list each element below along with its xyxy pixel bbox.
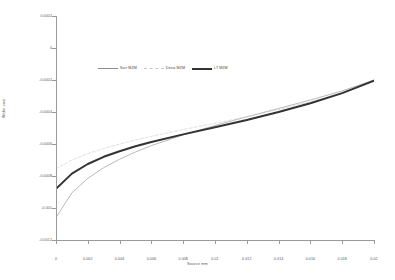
x-tick-label-text: 0.006 — [147, 257, 157, 261]
x-tick-label-text: 0.004 — [115, 257, 125, 261]
x-axis-title: Source mm — [0, 262, 395, 266]
series-line — [56, 81, 374, 169]
y-tick-label-text: -0.001 — [8, 206, 52, 210]
y-tick-mark — [52, 208, 56, 209]
y-tick-label: -0.0004 — [0, 110, 52, 114]
y-tick-label: -0.001 — [0, 206, 52, 210]
y-tick-mark — [52, 144, 56, 145]
x-tick-mark — [56, 240, 57, 244]
x-tick-mark — [183, 240, 184, 244]
x-tick-label-text: 0.016 — [306, 257, 316, 261]
x-tick-label-text: 0.02 — [370, 257, 377, 261]
x-tick-label-text: 0.01 — [211, 257, 218, 261]
y-tick-label-text: 0.0002 — [8, 14, 52, 18]
x-tick-mark — [247, 240, 248, 244]
y-tick-mark — [52, 48, 56, 49]
y-tick-label-text: -0.0006 — [8, 142, 52, 146]
x-tick-label-text: 0.012 — [242, 257, 252, 261]
legend-label: Surr MZM — [120, 66, 137, 70]
legend-item[interactable]: Surr MZM — [98, 62, 137, 74]
y-tick-label-text: -0.0004 — [8, 110, 52, 114]
x-tick-mark — [215, 240, 216, 244]
x-tick-mark — [374, 240, 375, 244]
x-tick-label-text: 0.018 — [337, 257, 347, 261]
x-tick-label-text: 0.014 — [274, 257, 284, 261]
y-tick-mark — [52, 80, 56, 81]
legend-item[interactable]: LT MZM — [192, 62, 228, 74]
y-tick-label-text: -0.0012 — [8, 238, 52, 242]
x-tick-mark — [310, 240, 311, 244]
series-line — [56, 80, 374, 218]
y-tick-label-text: 0 — [8, 46, 52, 50]
x-tick-mark — [151, 240, 152, 244]
y-tick-label-text: -0.0008 — [8, 174, 52, 178]
y-tick-label-text: -0.0002 — [8, 78, 52, 82]
y-tick-label: -0.0012 — [0, 238, 52, 242]
x-tick-mark — [279, 240, 280, 244]
chart-legend: Surr MZMDevia MZMLT MZM — [98, 62, 228, 74]
y-axis-line — [56, 16, 57, 240]
x-tick-mark — [342, 240, 343, 244]
y-tick-label: -0.0002 — [0, 78, 52, 82]
chart-figure: 0.00020-0.0002-0.0004-0.0006-0.0008-0.00… — [0, 0, 395, 280]
y-tick-mark — [52, 16, 56, 17]
curves-layer — [56, 16, 374, 240]
x-tick-mark — [88, 240, 89, 244]
x-tick-label-text: 0.002 — [83, 257, 93, 261]
y-tick-mark — [52, 176, 56, 177]
x-tick-mark — [120, 240, 121, 244]
legend-label: LT MZM — [214, 66, 228, 70]
legend-item[interactable]: Devia MZM — [144, 62, 185, 74]
y-tick-label: -0.0006 — [0, 142, 52, 146]
y-tick-label: 0.0002 — [0, 14, 52, 18]
y-tick-mark — [52, 112, 56, 113]
y-tick-label: -0.0008 — [0, 174, 52, 178]
legend-label: Devia MZM — [166, 66, 185, 70]
x-tick-label-text: 0 — [55, 257, 57, 261]
y-axis-title: Wafer cost — [2, 98, 6, 118]
y-tick-label: 0 — [0, 46, 52, 50]
x-tick-label-text: 0.008 — [178, 257, 188, 261]
